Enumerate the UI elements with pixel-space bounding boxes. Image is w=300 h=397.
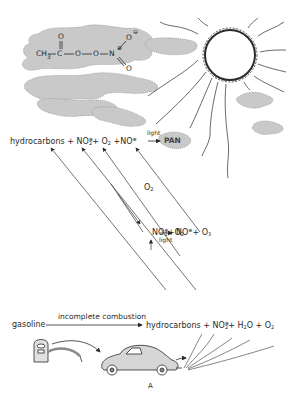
top-no2: NO⊕2 bbox=[77, 137, 93, 146]
top-o2: O2 bbox=[101, 137, 110, 146]
figure-caption: A bbox=[148, 383, 153, 390]
middle-no: NO⊕ bbox=[176, 228, 192, 237]
pan-carbonyl-oxygen: O bbox=[58, 33, 64, 41]
bottom-products: hydrocarbons + NO⊕2+ H2O + O2 bbox=[146, 321, 274, 330]
middle-o2-label: O2 bbox=[144, 184, 153, 192]
pan-ch3: CH3 bbox=[36, 50, 51, 60]
pan-oxygen-1: O bbox=[75, 50, 81, 58]
exhaust-fumes bbox=[184, 334, 274, 370]
bottom-o2: O2 bbox=[265, 321, 274, 330]
pan-oxygen-top: O bbox=[126, 34, 132, 42]
gasoline-label: gasoline bbox=[12, 321, 45, 329]
pan-nitrogen-charge: ⊕ bbox=[117, 45, 122, 51]
feedback-arrows bbox=[51, 148, 200, 290]
pan-nitrogen: N bbox=[109, 50, 115, 58]
middle-products: NO⊕+ O3 bbox=[176, 228, 211, 237]
car-icon bbox=[102, 345, 186, 375]
diagram-canvas bbox=[0, 0, 300, 397]
pan-carbon: C bbox=[57, 50, 62, 58]
pan-oxygen-bottom: O bbox=[126, 65, 132, 73]
top-no: NO⊕ bbox=[120, 137, 136, 146]
top-hydrocarbons: hydrocarbons bbox=[10, 137, 65, 146]
bottom-no2: NO⊕2 bbox=[213, 321, 229, 330]
incomplete-combustion-label: incomplete combustion bbox=[58, 313, 146, 321]
pan-product: PAN bbox=[164, 137, 181, 145]
middle-o3: O3 bbox=[202, 228, 211, 237]
gas-pump-icon bbox=[34, 340, 100, 363]
pan-oxygen-2: O bbox=[93, 50, 99, 58]
pan-oxygen-top-charge: ⊖ bbox=[133, 29, 138, 35]
bottom-h2o: H2O bbox=[237, 321, 253, 330]
bottom-hydrocarbons: hydrocarbons bbox=[146, 321, 201, 330]
top-equation: hydrocarbons + NO⊕2+ O2 +NO⊕ bbox=[10, 137, 137, 146]
top-arrow-light-label: light bbox=[147, 130, 160, 136]
middle-arrow-light-label: light bbox=[159, 237, 172, 243]
